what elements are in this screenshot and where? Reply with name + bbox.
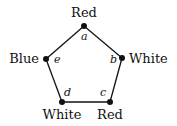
vertex-b — [119, 55, 125, 61]
vertex-label-a: a — [81, 30, 88, 43]
vertex-label-d: d — [64, 86, 71, 99]
vertex-c — [107, 99, 113, 105]
vertex-d — [59, 99, 65, 105]
color-label-d: White — [43, 107, 82, 122]
color-label-e: Blue — [9, 51, 39, 66]
edge-e-a — [46, 26, 84, 59]
color-label-a: Red — [71, 5, 97, 20]
color-label-c: Red — [97, 107, 123, 122]
vertex-a — [81, 23, 87, 29]
vertex-label-b: b — [110, 53, 117, 66]
vertex-label-e: e — [54, 53, 61, 66]
color-label-b: White — [129, 51, 168, 66]
vertex-e — [43, 56, 49, 62]
pentagon-graph: a b c d e Red White Red White Blue — [0, 0, 177, 126]
vertex-label-c: c — [100, 86, 106, 99]
